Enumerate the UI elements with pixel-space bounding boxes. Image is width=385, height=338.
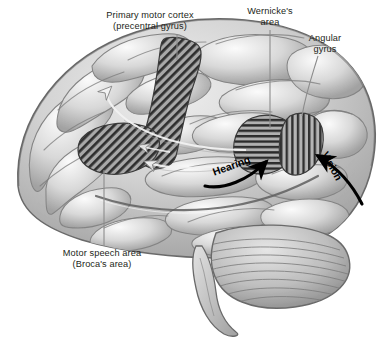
label-wernickes-area: Wernicke's area — [232, 6, 308, 28]
label-motor-speech-area: Motor speech area (Broca's area) — [24, 248, 180, 270]
label-primary-motor-cortex: Primary motor cortex (precentral gyrus) — [80, 10, 220, 32]
brain-diagram-figure: Primary motor cortex (precentral gyrus) … — [0, 0, 385, 338]
label-angular-gyrus: Angular gyrus — [286, 33, 364, 55]
